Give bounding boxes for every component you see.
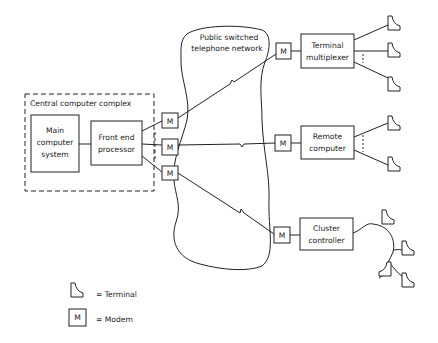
legend-terminal-label: = Terminal <box>96 290 137 299</box>
svg-text:controller: controller <box>308 236 345 245</box>
main-computer-system: Main computer system <box>31 115 79 172</box>
link-middle <box>178 143 275 147</box>
modem-left-middle: M <box>162 139 178 155</box>
svg-text:M: M <box>167 143 174 152</box>
terminal-icon <box>388 43 400 57</box>
terminal-icon <box>402 241 414 255</box>
modem-right-bottom: M <box>274 227 290 243</box>
modem-left-bottom: M <box>162 166 178 180</box>
front-end-processor: Front end processor <box>91 121 142 165</box>
main-computer-line-1: Main <box>46 126 64 135</box>
telephone-network-cloud <box>174 26 271 269</box>
svg-text:M: M <box>74 313 81 322</box>
modem-right-middle: M <box>275 135 291 151</box>
terminal-icon <box>388 16 400 30</box>
svg-text:Remote: Remote <box>313 132 343 141</box>
svg-text:M: M <box>280 139 287 148</box>
modem-left-top: M <box>162 113 178 128</box>
modem-right-top: M <box>276 43 291 59</box>
svg-text:computer: computer <box>309 144 347 153</box>
svg-text:Terminal: Terminal <box>310 41 343 50</box>
legend: = Terminal M = Modem <box>69 283 137 326</box>
fep-line-1: Front end <box>99 133 135 142</box>
svg-text:M: M <box>167 117 174 126</box>
legend-modem-label: = Modem <box>96 315 133 324</box>
terminal-icon <box>382 210 394 224</box>
fep-line-2: processor <box>98 145 136 154</box>
terminal-multiplexer: Terminal multiplexer <box>301 34 354 68</box>
legend-terminal-icon <box>71 283 83 297</box>
main-computer-line-3: system <box>41 150 68 159</box>
link-bottom <box>178 173 274 234</box>
svg-text:Cluster: Cluster <box>313 224 341 233</box>
terminal-icon <box>388 157 400 171</box>
remote-computer: Remote computer <box>301 126 354 159</box>
svg-text:M: M <box>280 47 287 56</box>
svg-text:M: M <box>167 169 174 178</box>
network-diagram: Central computer complex Main computer s… <box>0 0 438 343</box>
central-complex-label: Central computer complex <box>30 99 132 108</box>
main-computer-line-2: computer <box>37 138 75 147</box>
terminal-icon <box>379 262 391 276</box>
terminal-icon <box>402 273 414 287</box>
terminal-icon <box>388 77 400 91</box>
cluster-controller: Cluster controller <box>300 218 353 250</box>
terminal-icon <box>388 116 400 130</box>
svg-text:multiplexer: multiplexer <box>306 53 350 62</box>
network-label-line-1: Public switched <box>200 33 259 42</box>
svg-text:M: M <box>279 231 286 240</box>
network-label-line-2: telephone network <box>191 44 263 53</box>
